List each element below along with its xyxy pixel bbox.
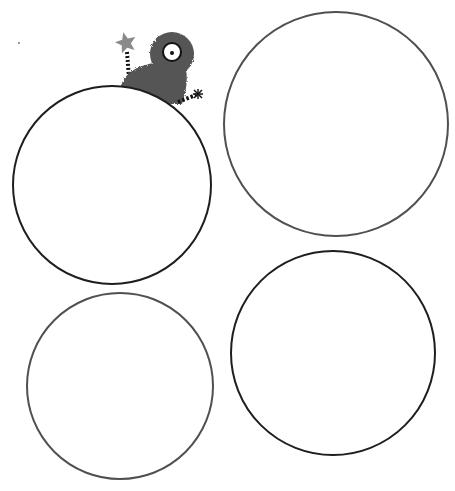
circle-bottom-left xyxy=(27,293,213,479)
circle-top-left xyxy=(13,86,211,284)
worksheet-illustration xyxy=(0,0,455,491)
monster-pupil xyxy=(170,51,174,55)
monster-illustration xyxy=(115,32,203,104)
speck-dot xyxy=(18,42,20,44)
monster-hand-icon xyxy=(193,89,203,99)
circle-group xyxy=(13,12,448,479)
worksheet-canvas: Worksheet with four empty circles and a … xyxy=(0,0,455,491)
star-icon xyxy=(115,32,135,53)
circle-bottom-right xyxy=(231,251,435,455)
circle-top-right xyxy=(224,12,448,236)
